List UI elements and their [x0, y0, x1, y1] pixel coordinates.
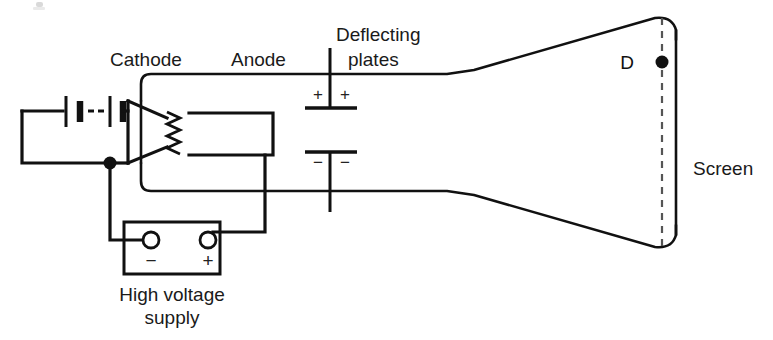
screen-label: Screen [693, 158, 753, 179]
supply-label-line2: supply [145, 307, 200, 328]
lower-plate-sign-right: − [340, 153, 350, 172]
upper-plate-sign-left: + [313, 85, 323, 104]
deflecting-plates-label-line1: Deflecting [336, 24, 421, 45]
deflecting-plates: + + − − [305, 48, 357, 212]
anode-label: Anode [231, 49, 286, 70]
high-voltage-supply: − + [124, 222, 220, 274]
scan-artifact [33, 2, 45, 10]
spot-d-label: D [620, 52, 634, 73]
cathode-assembly [128, 101, 180, 163]
spot-d-dot [656, 56, 669, 69]
crt-schematic-canvas: D [0, 0, 773, 340]
supply-positive-terminal[interactable] [200, 232, 216, 248]
cathode-label: Cathode [110, 49, 182, 70]
supply-label-line1: High voltage [119, 284, 225, 305]
heater-battery [22, 96, 128, 163]
supply-positive-sign: + [202, 250, 213, 271]
anode-supply-wire [213, 155, 265, 232]
lower-plate-sign-left: − [313, 153, 323, 172]
supply-negative-terminal[interactable] [143, 232, 159, 248]
deflecting-plates-label-line2: plates [348, 49, 399, 70]
anode-electrode [189, 113, 273, 155]
upper-plate-sign-right: + [340, 85, 350, 104]
tube-envelope [141, 18, 676, 248]
crt-diagram: D [0, 0, 773, 340]
supply-negative-sign: − [145, 250, 156, 271]
